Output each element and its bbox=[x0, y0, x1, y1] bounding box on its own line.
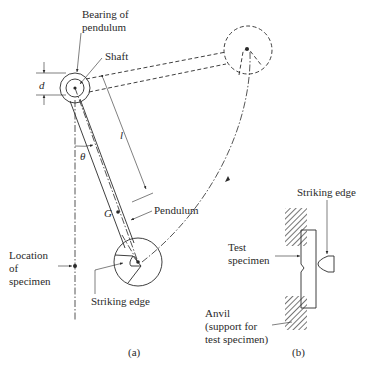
test-specimen-label-line2: specimen bbox=[228, 254, 270, 266]
striking-edge-label-b: Striking edge bbox=[297, 186, 356, 198]
caption-b: (b) bbox=[292, 346, 305, 359]
theta-arc bbox=[75, 145, 93, 146]
dimension-d: d bbox=[36, 62, 66, 105]
anvil-top bbox=[285, 208, 307, 246]
dimension-l: l bbox=[103, 78, 153, 202]
shaft-label: Shaft bbox=[105, 50, 128, 62]
impact-test-diagram: d l θ Bearing of pendulum Shaft G Pendul… bbox=[0, 0, 369, 375]
location-label-line3: specimen bbox=[9, 275, 51, 287]
bearing-label-line1: Bearing of bbox=[82, 8, 129, 20]
d-label: d bbox=[39, 79, 45, 91]
theta-label: θ bbox=[80, 150, 86, 162]
swing-arc bbox=[142, 52, 250, 262]
l-label: l bbox=[120, 129, 123, 141]
location-label-line2: of bbox=[9, 262, 19, 274]
anvil-bottom bbox=[285, 296, 307, 330]
swing-direction-arrow-icon bbox=[225, 176, 230, 182]
center-of-gravity-dot bbox=[116, 210, 120, 214]
figure-b: Striking edge Test specimen Anvil (suppo… bbox=[205, 186, 356, 359]
pendulum-label: Pendulum bbox=[154, 204, 199, 216]
anvil-label-line1: Anvil bbox=[205, 307, 230, 319]
anvil-label-line3: test specimen) bbox=[205, 333, 269, 346]
striking-edge-leader-a bbox=[95, 263, 123, 294]
shaft-leader bbox=[80, 58, 102, 84]
striking-edge-label-a: Striking edge bbox=[91, 295, 150, 307]
striking-edge-b bbox=[318, 256, 334, 272]
pendulum-leader bbox=[131, 211, 152, 220]
test-specimen-label-line1: Test bbox=[228, 241, 246, 253]
caption-a: (a) bbox=[128, 346, 141, 359]
g-label: G bbox=[104, 207, 112, 219]
pendulum-head bbox=[114, 235, 162, 286]
location-label-line1: Location bbox=[9, 249, 49, 261]
pendulum-arm bbox=[70, 88, 138, 262]
bearing-label-line2: pendulum bbox=[82, 21, 126, 33]
figure-a: d l θ Bearing of pendulum Shaft G Pendul… bbox=[9, 8, 272, 359]
bearing-leader bbox=[77, 33, 81, 72]
specimen-location-dot bbox=[73, 264, 77, 268]
anvil-label-line2: (support for bbox=[205, 320, 258, 333]
